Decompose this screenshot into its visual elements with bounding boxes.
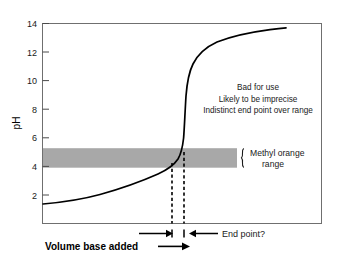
titration-curve-line — [43, 28, 286, 204]
methyl-orange-brace-icon — [242, 149, 244, 167]
methyl-orange-label-line1: Methyl orange — [250, 148, 305, 158]
ytick-label-10: 10 — [27, 76, 37, 86]
methyl-orange-band — [43, 148, 237, 168]
y-axis-ticks — [43, 24, 50, 196]
x-axis-arrowhead-icon — [182, 243, 190, 251]
y-axis-title: pH — [11, 117, 22, 130]
ytick-label-14: 14 — [27, 19, 37, 29]
annotation-line-2: Likely to be imprecise — [219, 95, 298, 104]
x-axis-title: Volume base added — [45, 241, 138, 252]
end-point-label: End point? — [222, 229, 265, 239]
titration-curve-chart: 14 12 10 8 6 4 2 pH Methyl orange range … — [0, 0, 340, 257]
annotation-line-1: Bad for use — [237, 83, 279, 92]
plot-frame — [43, 24, 322, 224]
ytick-label-6: 6 — [32, 133, 37, 143]
chart-container: 14 12 10 8 6 4 2 pH Methyl orange range … — [0, 0, 340, 257]
ytick-label-12: 12 — [27, 48, 37, 58]
endpoint-arrowhead-right — [189, 230, 196, 237]
methyl-orange-label-line2: range — [262, 159, 284, 169]
ytick-label-4: 4 — [32, 162, 37, 172]
ytick-label-2: 2 — [32, 191, 37, 201]
endpoint-arrow-group — [139, 230, 218, 238]
annotation-line-3: Indistinct end point over range — [203, 106, 313, 115]
ytick-label-8: 8 — [32, 105, 37, 115]
